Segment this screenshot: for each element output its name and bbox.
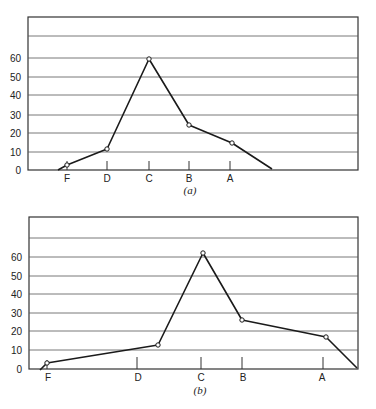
xlabel-D: D — [134, 372, 141, 383]
xlabel-F: F — [45, 372, 51, 383]
chart-b-curve — [40, 253, 357, 370]
chart-a-y-axis-labels: 60 50 40 30 20 10 0 — [10, 53, 22, 176]
ytick-20: 20 — [11, 326, 23, 337]
chart-a-curve — [58, 59, 272, 170]
chart-b-x-labels: F D C B A — [45, 372, 326, 383]
chart-b-caption: (b) — [194, 384, 207, 397]
ytick-50: 50 — [10, 72, 22, 83]
ytick-30: 30 — [11, 308, 23, 319]
chart-a-x-labels: F D C B A — [64, 173, 234, 184]
xlabel-C: C — [197, 372, 204, 383]
ytick-10: 10 — [10, 147, 22, 158]
chart-a-gridlines — [28, 36, 358, 152]
xlabel-C: C — [145, 173, 152, 184]
xlabel-F: F — [64, 173, 70, 184]
chart-b-frame — [29, 217, 358, 369]
xlabel-B: B — [186, 173, 193, 184]
chart-a: 60 50 40 30 20 10 0 F D C B A — [10, 17, 358, 197]
ytick-40: 40 — [11, 289, 23, 300]
chart-a-data-points — [65, 57, 234, 167]
xlabel-A: A — [319, 372, 326, 383]
ytick-40: 40 — [10, 90, 22, 101]
ytick-0: 0 — [15, 165, 21, 176]
chart-a-frame — [28, 17, 358, 170]
ytick-50: 50 — [11, 271, 23, 282]
ytick-60: 60 — [10, 53, 22, 64]
chart-a-caption: (a) — [184, 184, 197, 197]
figure: 60 50 40 30 20 10 0 F D C B A — [0, 0, 376, 409]
ytick-20: 20 — [10, 128, 22, 139]
ytick-10: 10 — [11, 345, 23, 356]
ytick-60: 60 — [11, 252, 23, 263]
xlabel-A: A — [227, 173, 234, 184]
xlabel-B: B — [240, 372, 247, 383]
chart-b-y-axis-labels: 60 50 40 30 20 10 0 — [11, 252, 23, 375]
chart-b-data-points — [45, 251, 328, 365]
chart-b: 60 50 40 30 20 10 0 F D C B A — [11, 217, 358, 397]
chart-b-x-ticks — [47, 357, 323, 369]
chart-a-x-ticks — [67, 161, 230, 170]
ytick-30: 30 — [10, 110, 22, 121]
ytick-0: 0 — [16, 364, 22, 375]
xlabel-D: D — [103, 173, 110, 184]
